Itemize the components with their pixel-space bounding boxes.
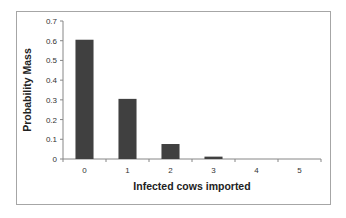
y-tick-label: 0.3 <box>46 96 58 105</box>
x-tick-label: 2 <box>168 166 173 175</box>
y-tick-label: 0.2 <box>46 116 58 125</box>
bar <box>118 99 136 159</box>
x-tick-label: 1 <box>125 166 130 175</box>
x-tick-label: 5 <box>297 166 302 175</box>
y-tick-label: 0.6 <box>46 37 58 46</box>
bar <box>75 40 93 159</box>
y-tick-label: 0.5 <box>46 56 58 65</box>
bar-chart: 00.10.20.30.40.50.60.7 012345 Infected c… <box>0 0 346 218</box>
x-tick-label: 4 <box>254 166 259 175</box>
y-axis-title: Probability Mass <box>21 48 33 132</box>
bars <box>75 40 222 159</box>
y-axis: 00.10.20.30.40.50.60.7 <box>46 17 63 164</box>
x-axis-title: Infected cows imported <box>133 180 250 192</box>
y-tick-label: 0.7 <box>46 17 58 26</box>
y-tick-label: 0 <box>53 155 58 164</box>
x-axis: 012345 <box>63 159 321 175</box>
y-tick-label: 0.1 <box>46 135 58 144</box>
x-tick-label: 0 <box>82 166 87 175</box>
x-tick-label: 3 <box>211 166 216 175</box>
y-tick-label: 0.4 <box>46 76 58 85</box>
bar <box>204 157 222 159</box>
bar <box>161 144 179 159</box>
